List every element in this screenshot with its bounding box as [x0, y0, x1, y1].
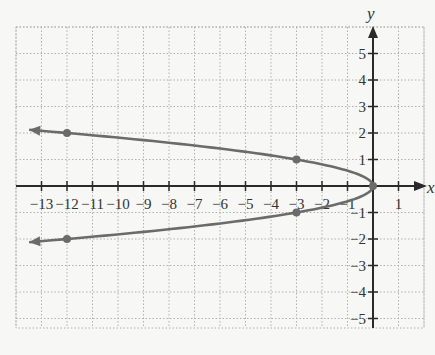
data-point — [293, 209, 301, 217]
y-tick-label: 1 — [359, 152, 367, 168]
y-tick-label: −3 — [350, 258, 366, 274]
x-tick-label: −4 — [263, 196, 279, 212]
x-tick-label: −10 — [106, 196, 129, 212]
y-tick-label: −2 — [350, 231, 366, 247]
x-tick-label: −7 — [187, 196, 203, 212]
x-axis-label: x — [426, 178, 435, 197]
curve-arrow-icon — [29, 236, 40, 246]
y-tick-label: 4 — [359, 72, 367, 88]
data-point — [63, 235, 71, 243]
y-axis-arrow-icon — [368, 26, 378, 38]
data-point — [369, 182, 377, 190]
x-tick-label: −9 — [136, 196, 152, 212]
x-axis-arrow-icon — [414, 181, 427, 191]
x-tick-label: −11 — [81, 196, 104, 212]
y-axis-label: y — [365, 4, 375, 23]
y-tick-label: 2 — [359, 125, 367, 141]
y-tick-label: 3 — [359, 99, 367, 115]
x-tick-label: −12 — [55, 196, 78, 212]
x-tick-labels: −13−12−11−10−9−8−7−6−5−4−3−2−11 — [30, 196, 402, 212]
x-tick-label: −13 — [30, 196, 53, 212]
x-tick-label: −8 — [161, 196, 177, 212]
x-tick-label: −6 — [212, 196, 228, 212]
y-tick-label: −1 — [350, 205, 366, 221]
data-point — [293, 156, 301, 164]
data-point — [63, 129, 71, 137]
parabola-chart: −13−12−11−10−9−8−7−6−5−4−3−2−11 −5−4−3−2… — [0, 0, 435, 355]
y-tick-label: 5 — [359, 46, 367, 62]
y-tick-label: −5 — [350, 311, 366, 327]
curve-arrow-icon — [29, 126, 40, 136]
x-tick-label: 1 — [395, 196, 403, 212]
y-tick-label: −4 — [350, 284, 366, 300]
x-tick-label: −5 — [238, 196, 254, 212]
